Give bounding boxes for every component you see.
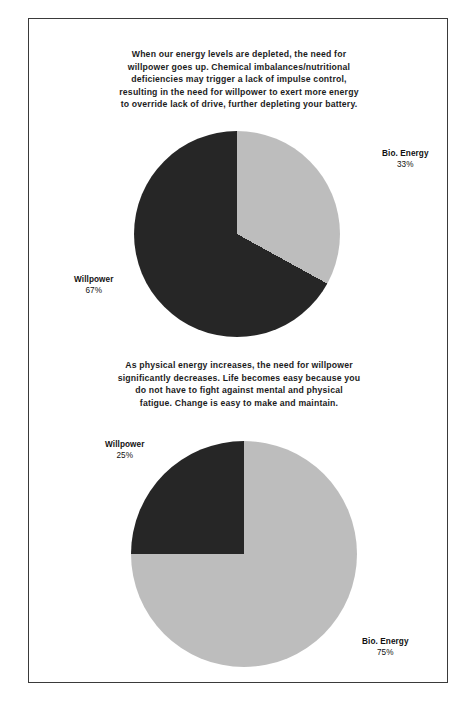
pie-chart-depleted-energy — [134, 131, 340, 337]
paragraph-line: When our energy levels are depleted, the… — [92, 48, 386, 61]
paragraph-line: to override lack of drive, further deple… — [92, 98, 386, 111]
pie-slice-label-percent: 67% — [74, 285, 114, 296]
pie-slice-label-name: Bio. Energy — [382, 148, 429, 159]
pie-slice-label-percent: 33% — [382, 159, 429, 170]
paragraph-line: deficiencies may trigger a lack of impul… — [92, 73, 386, 86]
pie-slice-label-name: Bio. Energy — [362, 636, 409, 647]
paragraph-line: resulting in the need for willpower to e… — [92, 86, 386, 99]
pie-slice-label-bio-energy-chart1: Bio. Energy 33% — [382, 148, 429, 170]
pie-slice-label-bio-energy-chart2: Bio. Energy 75% — [362, 636, 409, 658]
paragraph-line: significantly decreases. Life becomes ea… — [92, 372, 386, 385]
pie-slice-label-willpower-chart1: Willpower 67% — [74, 274, 114, 296]
page-frame: When our energy levels are depleted, the… — [28, 18, 448, 683]
pie-slice-label-percent: 75% — [362, 647, 409, 658]
paragraph-line: As physical energy increases, the need f… — [92, 359, 386, 372]
pie-slice-label-percent: 25% — [105, 450, 145, 461]
paragraph-line: do not have to fight against mental and … — [92, 384, 386, 397]
pie-chart-increased-energy — [131, 441, 357, 667]
pie-slice-label-willpower-chart2: Willpower 25% — [105, 439, 145, 461]
paragraph-energy-depleted: When our energy levels are depleted, the… — [92, 48, 386, 111]
pie-slice-label-name: Willpower — [105, 439, 145, 450]
paragraph-energy-increases: As physical energy increases, the need f… — [92, 359, 386, 409]
pie-slice-label-name: Willpower — [74, 274, 114, 285]
paragraph-line: fatigue. Change is easy to make and main… — [92, 397, 386, 410]
paragraph-line: willpower goes up. Chemical imbalances/n… — [92, 61, 386, 74]
